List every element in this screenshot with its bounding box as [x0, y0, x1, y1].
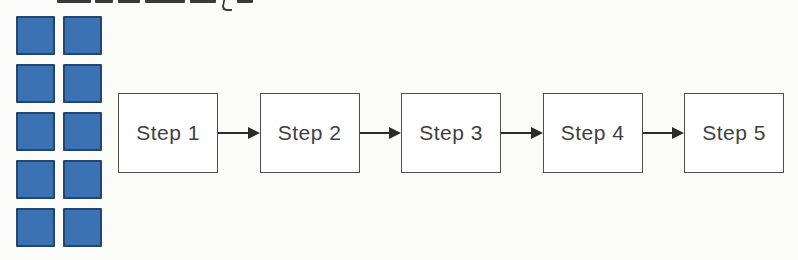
flow-arrow-icon: [501, 93, 543, 173]
flow-arrow-head: [672, 127, 684, 139]
step-box-5: Step 5: [684, 93, 784, 173]
block-square: [63, 208, 102, 247]
step-label: Step 3: [419, 121, 483, 145]
block-grid: [16, 16, 102, 247]
flow-arrow-line: [360, 132, 393, 134]
step-box-3: Step 3: [401, 93, 501, 173]
flow-arrow-icon: [218, 93, 260, 173]
block-square: [63, 64, 102, 103]
step-box-1: Step 1: [118, 93, 218, 173]
cropped-glyph-fragment: [95, 0, 113, 3]
cropped-glyph-fragment: [145, 0, 185, 3]
block-square: [63, 112, 102, 151]
step-box-4: Step 4: [543, 93, 643, 173]
block-square: [63, 160, 102, 199]
step-label: Step 5: [702, 121, 766, 145]
block-square: [16, 64, 55, 103]
step-box-2: Step 2: [260, 93, 360, 173]
cropped-heading-remnant: [0, 0, 798, 10]
cropped-glyph-fragment: [237, 0, 253, 3]
step-label: Step 1: [136, 121, 200, 145]
cropped-glyph-fragment: [57, 0, 91, 3]
block-square: [63, 16, 102, 55]
block-square: [16, 160, 55, 199]
step-label: Step 4: [561, 121, 625, 145]
flow-arrow-line: [218, 132, 251, 134]
cropped-glyph-fragment: [190, 0, 216, 3]
flow-arrow-icon: [643, 93, 685, 173]
flow-arrow-line: [643, 132, 676, 134]
flow-arrow-icon: [360, 93, 402, 173]
block-square: [16, 16, 55, 55]
flow-arrow-head: [248, 127, 260, 139]
flow-arrow-head: [389, 127, 401, 139]
block-square: [16, 208, 55, 247]
flowchart-row: Step 1Step 2Step 3Step 4Step 5: [118, 93, 784, 173]
cropped-y-descender-fragment: [221, 0, 234, 11]
block-square: [16, 112, 55, 151]
diagram-canvas: Step 1Step 2Step 3Step 4Step 5: [0, 0, 798, 260]
cropped-glyph-fragment: [118, 0, 140, 3]
flow-arrow-line: [501, 132, 534, 134]
flow-arrow-head: [531, 127, 543, 139]
step-label: Step 2: [278, 121, 342, 145]
